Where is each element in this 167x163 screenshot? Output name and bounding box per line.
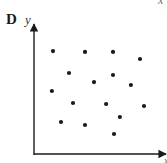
- data-point: [118, 115, 122, 119]
- data-point: [138, 57, 142, 61]
- data-point: [142, 104, 146, 108]
- data-point: [50, 89, 54, 93]
- data-point: [104, 102, 108, 106]
- data-point: [129, 83, 133, 87]
- data-point: [59, 120, 63, 124]
- data-point: [111, 50, 115, 54]
- data-points: [50, 49, 146, 136]
- scatter-plot: [0, 0, 167, 163]
- data-point: [83, 123, 87, 127]
- data-point: [67, 71, 71, 75]
- data-point: [83, 50, 87, 54]
- data-point: [112, 132, 116, 136]
- data-point: [111, 73, 115, 77]
- data-point: [51, 49, 55, 53]
- data-point: [71, 101, 75, 105]
- data-point: [92, 80, 96, 84]
